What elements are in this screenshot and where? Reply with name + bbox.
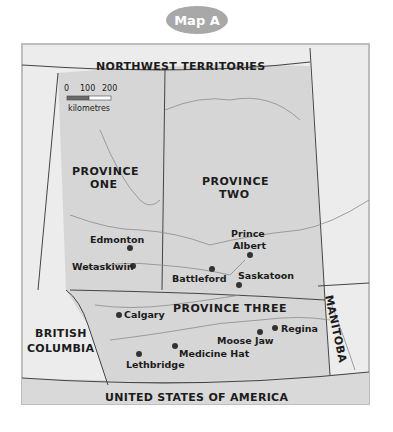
scale-tick-200: 200 [102,84,117,93]
city-calgary: Calgary [124,309,166,320]
city-prince-albert-1: Prince [231,228,265,239]
city-medicine-hat: Medicine Hat [179,348,250,359]
label-province-one-1: PROVINCE [72,165,139,178]
city-edmonton: Edmonton [90,234,145,245]
scale-tick-100: 100 [80,84,95,93]
city-battleford: Battleford [172,273,227,284]
label-province-three: PROVINCE THREE [173,302,287,315]
city-wetaskiwin: Wetaskiwin [72,261,134,272]
city-regina: Regina [281,323,318,334]
label-province-two-2: TWO [219,188,250,201]
city-saskatoon: Saskatoon [238,270,294,281]
label-british-columbia-2: COLUMBIA [27,342,94,355]
label-province-two-1: PROVINCE [202,175,269,188]
label-british-columbia-1: BRITISH [35,327,87,340]
scale-unit: kilometres [68,104,110,113]
city-lethbridge: Lethbridge [126,359,185,370]
map-canvas: 0 100 200 kilometres NORTHWEST TERRITORI… [0,0,393,432]
label-usa: UNITED STATES OF AMERICA [105,391,288,404]
city-moose-jaw: Moose Jaw [217,335,274,346]
city-prince-albert-2: Albert [233,240,267,251]
scale-tick-0: 0 [64,84,69,93]
label-province-one-2: ONE [90,178,118,191]
label-northwest-territories: NORTHWEST TERRITORIES [96,60,265,73]
